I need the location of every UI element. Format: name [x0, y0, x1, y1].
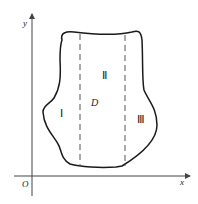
origin-label: O — [22, 179, 29, 189]
x-axis-label: x — [179, 177, 184, 187]
y-axis-label: y — [22, 18, 27, 28]
subregion-label-3: Ⅲ — [137, 113, 145, 125]
subregion-label-1: Ⅰ — [60, 107, 63, 119]
subregion-label-2: Ⅱ — [102, 69, 107, 81]
region-label-d: D — [90, 97, 99, 108]
diagram-canvas: x y O Ⅰ D Ⅱ Ⅲ — [0, 0, 198, 204]
region-boundary — [43, 31, 157, 167]
